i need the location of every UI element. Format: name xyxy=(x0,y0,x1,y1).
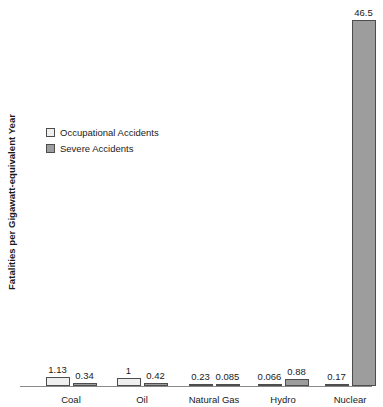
bar-value-hydro-occupational: 0.066 xyxy=(258,371,282,382)
bar-value-nuclear-severe: 46.5 xyxy=(354,7,373,18)
bar-value-coal-severe: 0.34 xyxy=(75,370,94,381)
y-axis-title: Fatalities per Gigawatt-equivalent Year xyxy=(0,0,22,407)
bar-nuclear-severe xyxy=(352,20,376,386)
y-axis-title-text: Fatalities per Gigawatt-equivalent Year xyxy=(6,114,17,290)
bar-chart: Fatalities per Gigawatt-equivalent Year … xyxy=(0,0,383,407)
category-label-oil: Oil xyxy=(136,394,148,405)
category-label-nuclear: Nuclear xyxy=(334,394,367,405)
category-label-natural-gas: Natural Gas xyxy=(189,394,240,405)
plot-area: 1.130.3410.420.230.0850.0660.880.1746.5 … xyxy=(20,8,372,378)
bar-nuclear-occupational xyxy=(325,384,349,387)
bar-hydro-occupational xyxy=(258,384,282,387)
bar-oil-occupational xyxy=(117,378,141,386)
bar-oil-severe xyxy=(144,383,168,386)
bar-value-nuclear-occupational: 0.17 xyxy=(327,371,346,382)
bar-value-coal-occupational: 1.13 xyxy=(48,364,67,375)
bar-value-oil-occupational: 1 xyxy=(126,365,131,376)
bar-value-oil-severe: 0.42 xyxy=(146,370,165,381)
bar-natural-gas-severe xyxy=(216,384,240,387)
bar-coal-severe xyxy=(73,383,97,386)
bar-value-natural-gas-severe: 0.085 xyxy=(216,371,240,382)
bar-coal-occupational xyxy=(46,377,70,386)
bar-value-hydro-severe: 0.88 xyxy=(287,366,306,377)
bar-value-natural-gas-occupational: 0.23 xyxy=(191,371,210,382)
bar-natural-gas-occupational xyxy=(189,384,213,387)
x-axis-baseline xyxy=(20,386,372,387)
bar-hydro-severe xyxy=(285,379,309,386)
category-label-hydro: Hydro xyxy=(270,394,295,405)
category-label-coal: Coal xyxy=(61,394,81,405)
